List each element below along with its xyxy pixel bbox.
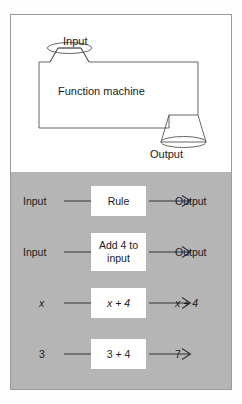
rule-box-text: Add 4 toinput (99, 239, 138, 264)
flow-result-label: 7 (175, 349, 229, 360)
machine-body-label: Function machine (58, 85, 145, 97)
flow-row: 3 3 + 4 7 (11, 331, 231, 377)
function-machine-figure: Input Function machine Output Input Rule… (10, 14, 232, 390)
flow-result-label: Output (175, 247, 229, 258)
input-funnel-body (50, 48, 89, 62)
rule-box-line: input (107, 252, 130, 264)
flow-result-label: x + 4 (175, 298, 229, 309)
machine-illustration-panel: Input Function machine Output (11, 15, 231, 172)
flow-row: Input Add 4 toinput Output (11, 229, 231, 275)
rule-box: x + 4 (91, 288, 146, 318)
rule-box-text: Rule (108, 195, 130, 208)
rule-box: Add 4 toinput (91, 233, 146, 271)
flow-row: Input Rule Output (11, 178, 231, 224)
machine-output-label: Output (150, 148, 183, 160)
machine-input-label: Input (63, 35, 87, 47)
rule-box: Rule (91, 186, 146, 216)
flow-source-variable: x (39, 297, 44, 309)
rule-box-text: 3 + 4 (107, 348, 131, 361)
flow-result-label: Output (175, 196, 229, 207)
rule-box-text: x + 4 (107, 297, 130, 310)
flow-result-expression: x + 4 (175, 297, 198, 309)
rule-box-line: Add 4 to (99, 239, 138, 251)
flow-row: x x + 4 x + 4 (11, 280, 231, 326)
rule-box: 3 + 4 (91, 339, 146, 369)
flow-diagram-panel: Input Rule Output Input Add 4 toinput (11, 172, 231, 389)
